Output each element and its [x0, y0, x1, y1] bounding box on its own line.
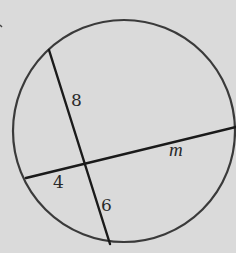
label-right-segment: m — [169, 140, 183, 159]
circle — [13, 20, 235, 242]
chord-segment-4-m — [26, 127, 236, 178]
diagram-canvas — [0, 0, 236, 253]
label-upper-segment: 8 — [71, 92, 82, 109]
intersecting-chords-diagram: 8 4 6 m — [0, 0, 236, 253]
label-left-segment: 4 — [53, 174, 64, 191]
edge-mark — [0, 25, 2, 27]
label-lower-segment: 6 — [101, 197, 112, 214]
